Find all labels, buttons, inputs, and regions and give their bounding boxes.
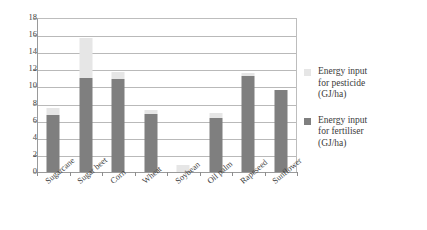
legend-label-pesticide-line1: Energy input <box>318 66 424 78</box>
bar-slot <box>265 18 298 172</box>
bar-slot <box>135 18 168 172</box>
bar-segment-fertiliser <box>242 76 255 172</box>
legend-swatch-pesticide <box>304 69 311 76</box>
bar-segment-pesticide <box>112 72 125 79</box>
x-axis-tick-mark <box>37 172 38 176</box>
bar-segment-fertiliser <box>79 78 92 172</box>
stacked-bar[interactable] <box>112 72 125 172</box>
y-axis: 181614121086420 <box>0 0 37 230</box>
bar-segment-fertiliser <box>274 90 287 172</box>
x-axis-tick-mark <box>167 172 168 176</box>
legend-label-pesticide-line2: for pesticide <box>318 78 424 90</box>
legend-item-pesticide: Energy input for pesticide (GJ/ha) <box>304 66 424 101</box>
bar-segment-pesticide <box>79 38 92 78</box>
x-axis-tick-mark <box>265 172 266 176</box>
bar-segment-fertiliser <box>112 79 125 172</box>
x-axis-tick-mark <box>70 172 71 176</box>
bar-slot <box>232 18 265 172</box>
bar-chart: 181614121086420 SugarcaneSugar beetCornW… <box>0 0 427 230</box>
bar-series-group <box>37 18 297 172</box>
stacked-bar[interactable] <box>144 110 157 172</box>
legend-label-pesticide-line3: (GJ/ha) <box>318 89 424 101</box>
bar-segment-pesticide <box>209 113 222 118</box>
bar-segment-fertiliser <box>144 114 157 172</box>
bar-slot <box>102 18 135 172</box>
x-axis-tick-mark <box>135 172 136 176</box>
bar-segment-fertiliser <box>47 115 60 172</box>
bar-slot <box>70 18 103 172</box>
legend-label-fertiliser-line1: Energy input <box>318 115 424 127</box>
legend-label-fertiliser-line2: for fertiliser <box>318 126 424 138</box>
stacked-bar[interactable] <box>209 113 222 172</box>
stacked-bar[interactable] <box>274 90 287 172</box>
bar-segment-pesticide <box>242 73 255 76</box>
stacked-bar[interactable] <box>79 38 92 172</box>
x-axis-tick-mark <box>297 172 298 176</box>
bar-segment-pesticide <box>144 110 157 113</box>
stacked-bar[interactable] <box>47 108 60 172</box>
bar-slot <box>37 18 70 172</box>
stacked-bar[interactable] <box>242 73 255 172</box>
bar-segment-pesticide <box>47 108 60 115</box>
legend: Energy input for pesticide (GJ/ha) Energ… <box>304 66 424 163</box>
legend-label-fertiliser-line3: (GJ/ha) <box>318 138 424 150</box>
legend-swatch-fertiliser <box>304 118 311 125</box>
x-axis-tick-mark <box>232 172 233 176</box>
legend-item-fertiliser: Energy input for fertiliser (GJ/ha) <box>304 115 424 150</box>
bar-slot <box>200 18 233 172</box>
x-axis-tick-mark <box>200 172 201 176</box>
x-axis-tick-mark <box>102 172 103 176</box>
bar-slot <box>167 18 200 172</box>
